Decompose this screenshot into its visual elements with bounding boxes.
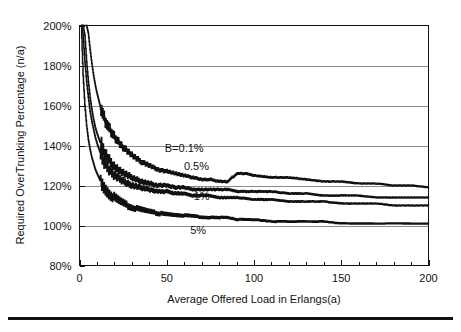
y-tick-label-180: 180% <box>43 60 71 72</box>
series-label-5-: 5% <box>190 224 206 236</box>
y-tick-label-80: 80% <box>49 260 71 272</box>
y-tick-label-160: 160% <box>43 100 71 112</box>
overtrunking-chart: 050100150200 80%100%120%140%160%180%200%… <box>0 0 461 332</box>
y-axis-title: Required OverTrunking Percentage (n/a) <box>14 46 26 245</box>
x-tick-label-100: 100 <box>245 272 263 284</box>
series-label-0-5-: 0.5% <box>184 160 209 172</box>
x-tick-label-50: 50 <box>161 272 173 284</box>
x-tick-label-0: 0 <box>76 272 82 284</box>
y-tick-label-100: 100% <box>43 220 71 232</box>
x-tick-label-200: 200 <box>419 272 437 284</box>
series-label-b-0-1-: B=0.1% <box>165 142 204 154</box>
x-tick-label-150: 150 <box>332 272 350 284</box>
chart-background <box>0 0 461 332</box>
y-tick-label-120: 120% <box>43 180 71 192</box>
chart-page: 050100150200 80%100%120%140%160%180%200%… <box>0 0 461 332</box>
series-label-1-: 1% <box>194 190 210 202</box>
y-tick-label-140: 140% <box>43 140 71 152</box>
y-tick-label-200: 200% <box>43 20 71 32</box>
x-axis-title: Average Offered Load in Erlangs(a) <box>167 293 340 305</box>
